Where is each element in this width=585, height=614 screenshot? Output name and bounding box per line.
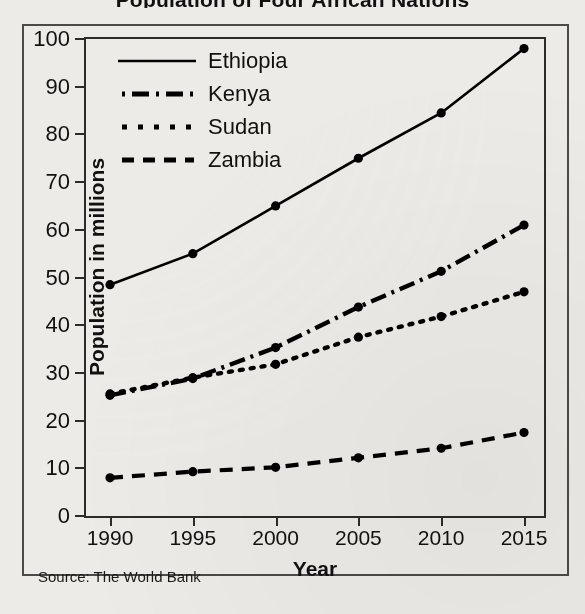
y-tick-label: 90 <box>10 74 70 100</box>
y-tick-mark <box>75 324 84 326</box>
y-tick-mark <box>75 181 84 183</box>
x-tick-label: 2015 <box>501 526 548 550</box>
y-tick-label: 30 <box>10 360 70 386</box>
data-point-zambia-2000 <box>271 463 280 472</box>
legend-swatch-dotted-icon <box>118 120 196 134</box>
data-point-kenya-2015 <box>519 220 528 229</box>
x-tick-mark <box>524 517 526 526</box>
y-tick-mark <box>75 420 84 422</box>
x-tick-mark <box>441 517 443 526</box>
data-point-zambia-1990 <box>105 473 114 482</box>
data-point-ethiopia-1990 <box>105 280 114 289</box>
y-tick-label: 50 <box>10 265 70 291</box>
chart-page: Population of Four African Nations 01020… <box>0 0 585 614</box>
x-tick-mark <box>276 517 278 526</box>
y-tick-mark <box>75 133 84 135</box>
data-point-kenya-2000 <box>271 343 280 352</box>
legend-label: Ethiopia <box>208 50 288 72</box>
data-point-kenya-2005 <box>354 302 363 311</box>
y-tick-label: 0 <box>10 503 70 529</box>
chart-title: Population of Four African Nations <box>0 0 585 8</box>
data-point-sudan-1995 <box>188 373 197 382</box>
y-tick-label: 60 <box>10 217 70 243</box>
y-tick-label: 20 <box>10 408 70 434</box>
legend-swatch-dashed-icon <box>118 153 196 167</box>
data-point-zambia-1995 <box>188 467 197 476</box>
data-point-ethiopia-2000 <box>271 201 280 210</box>
legend-label: Zambia <box>208 149 281 171</box>
y-tick-label: 40 <box>10 312 70 338</box>
y-tick-mark <box>75 38 84 40</box>
data-point-zambia-2010 <box>437 444 446 453</box>
y-tick-label: 10 <box>10 455 70 481</box>
legend-item-kenya: Kenya <box>118 77 288 110</box>
chart-legend: EthiopiaKenyaSudanZambia <box>118 44 288 176</box>
x-tick-mark <box>110 517 112 526</box>
data-point-ethiopia-1995 <box>188 249 197 258</box>
x-tick-label: 2000 <box>252 526 299 550</box>
y-tick-mark <box>75 467 84 469</box>
data-point-kenya-2010 <box>437 267 446 276</box>
x-tick-mark <box>193 517 195 526</box>
data-point-sudan-1990 <box>105 389 114 398</box>
legend-swatch-solid-icon <box>118 54 196 68</box>
series-line-sudan <box>110 292 524 394</box>
x-tick-mark <box>358 517 360 526</box>
data-point-ethiopia-2010 <box>437 108 446 117</box>
legend-item-ethiopia: Ethiopia <box>118 44 288 77</box>
legend-swatch-dash-dot-icon <box>118 87 196 101</box>
x-tick-label: 1990 <box>87 526 134 550</box>
y-tick-mark <box>75 86 84 88</box>
data-point-sudan-2015 <box>519 287 528 296</box>
legend-label: Sudan <box>208 116 272 138</box>
source-note: Source: The World Bank <box>38 568 201 585</box>
x-tick-label: 1995 <box>169 526 216 550</box>
y-tick-mark <box>75 229 84 231</box>
y-tick-mark <box>75 515 84 517</box>
y-tick-label: 70 <box>10 169 70 195</box>
y-tick-label: 100 <box>10 26 70 52</box>
x-tick-label: 2005 <box>335 526 382 550</box>
legend-label: Kenya <box>208 83 270 105</box>
data-point-ethiopia-2005 <box>354 154 363 163</box>
legend-item-sudan: Sudan <box>118 110 288 143</box>
y-tick-mark <box>75 372 84 374</box>
data-point-sudan-2010 <box>437 312 446 321</box>
series-line-zambia <box>110 433 524 478</box>
data-point-zambia-2015 <box>519 428 528 437</box>
data-point-zambia-2005 <box>354 453 363 462</box>
legend-item-zambia: Zambia <box>118 143 288 176</box>
y-tick-mark <box>75 277 84 279</box>
x-tick-label: 2010 <box>418 526 465 550</box>
data-point-sudan-2000 <box>271 360 280 369</box>
y-tick-label: 80 <box>10 121 70 147</box>
data-point-ethiopia-2015 <box>519 44 528 53</box>
data-point-sudan-2005 <box>354 333 363 342</box>
